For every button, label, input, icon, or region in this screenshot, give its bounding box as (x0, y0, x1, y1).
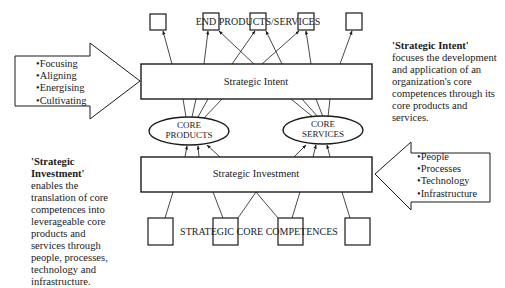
end-products-services-label: END PRODUCTS/SERVICES (196, 16, 321, 27)
investment-to-core-arrows (185, 145, 330, 157)
right-arrow-item: Processes (417, 163, 477, 175)
core-products-line1: CORE (177, 120, 202, 130)
strategic-intent-text: focuses the development and application … (392, 52, 497, 123)
strategic-investment-label: Strategic Investment (213, 168, 300, 179)
right-arrow-item: People (417, 151, 477, 163)
left-arrow-item: Energising (36, 82, 86, 94)
strategic-intent-label: Strategic Intent (224, 76, 289, 87)
left-arrow-item: Focusing (36, 58, 86, 70)
right-arrow-item: Infrastructure (417, 188, 477, 200)
strategic-investment-text: enables the translation of core competen… (31, 180, 108, 287)
strategic-intent-term: 'Strategic Intent' (392, 40, 469, 51)
left-arrow-item: Aligning (36, 70, 86, 82)
left-arrow-list: Focusing Aligning Energising Cultivating (36, 58, 86, 107)
intent-to-core-lines (183, 99, 330, 118)
core-services-line2: SERVICES (302, 129, 344, 139)
right-arrow-list: People Processes Technology Infrastructu… (417, 151, 477, 200)
core-products-line2: PRODUCTS (165, 130, 212, 140)
core-services-line1: CORE (311, 119, 336, 129)
competence-square-4 (345, 218, 370, 245)
right-arrow-item: Technology (417, 175, 477, 187)
competences-to-investment-lines (165, 192, 350, 218)
end-product-square-5 (346, 13, 362, 30)
intent-to-products-arrows (163, 31, 352, 64)
end-product-square-1 (150, 14, 166, 30)
left-arrow-item: Cultivating (36, 95, 86, 107)
strategic-investment-term: 'Strategic Investment' (31, 156, 85, 179)
competence-square-1 (148, 218, 173, 245)
strategic-core-competences-label: STRATEGIC CORE COMPETENCES (180, 226, 338, 237)
strategic-investment-description: 'Strategic Investment' enables the trans… (31, 156, 117, 288)
strategic-intent-description: 'Strategic Intent' focuses the developme… (392, 40, 502, 124)
